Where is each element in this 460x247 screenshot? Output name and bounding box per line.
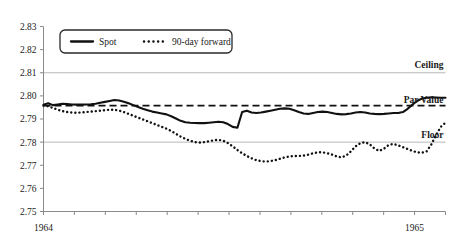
y-tick-label: 2.83: [20, 22, 37, 32]
data-series-layer: [44, 97, 446, 161]
par-value-label: Par Value: [404, 95, 444, 105]
ceiling-label: Ceiling: [414, 60, 443, 70]
y-axis-tick-labels: 2.832.822.812.802.792.782.772.762.75: [20, 22, 37, 217]
x-tick-label: 1964: [34, 223, 53, 233]
y-tick-label: 2.78: [20, 138, 37, 148]
legend-label-forward: 90-day forward: [172, 37, 231, 47]
exchange-rate-chart: 2.832.822.812.802.792.782.772.762.75 196…: [0, 0, 460, 247]
chart-canvas: 2.832.822.812.802.792.782.772.762.75 196…: [0, 0, 460, 247]
y-tick-label: 2.80: [20, 91, 37, 101]
x-axis-tick-labels: 19641965: [34, 223, 424, 233]
series-line-spot: [44, 97, 446, 128]
gridlines: [44, 73, 446, 142]
y-tick-label: 2.82: [20, 45, 37, 55]
floor-label: Floor: [421, 130, 444, 140]
y-tick-label: 2.79: [20, 114, 37, 124]
y-tick-label: 2.76: [20, 184, 37, 194]
band-annotation-labels: CeilingPar ValueFloor: [404, 60, 444, 139]
x-tick-label: 1965: [405, 223, 424, 233]
axis-lines: [44, 27, 446, 212]
y-tick-label: 2.75: [20, 207, 37, 217]
y-tick-label: 2.81: [20, 68, 37, 78]
y-axis-ticks: [40, 27, 44, 212]
y-tick-label: 2.77: [20, 161, 37, 171]
x-axis-ticks: [44, 212, 446, 216]
legend: Spot90-day forward: [60, 30, 232, 53]
legend-label-spot: Spot: [99, 37, 117, 47]
